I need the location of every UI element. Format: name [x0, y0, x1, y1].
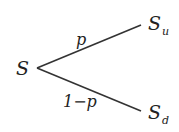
down-node-label: Sd — [148, 103, 168, 122]
up-probability-label: p — [76, 32, 86, 48]
root-node-label: S — [16, 59, 29, 78]
binomial-tree-diagram: S Su Sd p 1−p — [0, 0, 179, 132]
down-probability-label: 1−p — [63, 94, 97, 110]
edge-up — [37, 25, 141, 68]
up-node-label: Su — [148, 14, 168, 33]
